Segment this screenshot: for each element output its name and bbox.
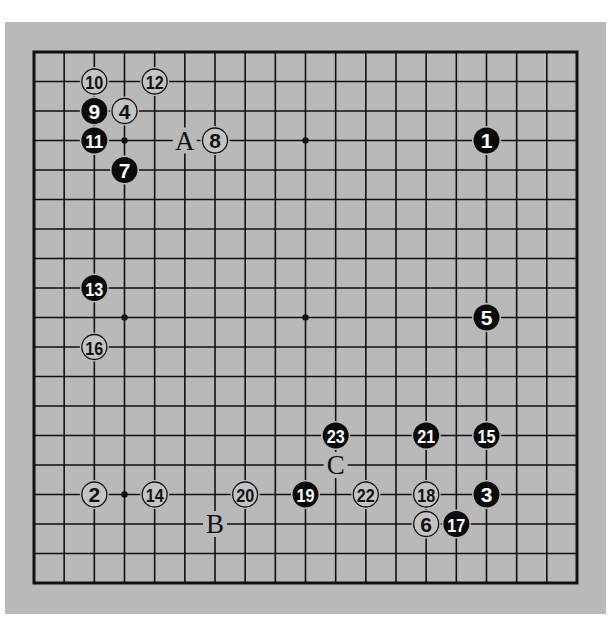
- svg-text:B: B: [206, 509, 224, 539]
- star-point: [302, 314, 308, 320]
- white-stone-14: 14: [140, 480, 169, 509]
- white-stone-22: 22: [351, 480, 380, 509]
- black-stone-15: 15: [472, 421, 501, 450]
- svg-text:18: 18: [417, 486, 435, 506]
- svg-text:8: 8: [209, 129, 221, 152]
- svg-text:19: 19: [297, 486, 315, 506]
- svg-text:16: 16: [85, 339, 103, 359]
- black-stone-7: 7: [110, 156, 139, 185]
- svg-text:2: 2: [88, 483, 100, 506]
- black-stone-23: 23: [321, 421, 350, 450]
- white-stone-8: 8: [201, 126, 230, 155]
- svg-text:A: A: [175, 126, 195, 156]
- white-stone-2: 2: [80, 480, 109, 509]
- svg-text:3: 3: [481, 483, 493, 506]
- white-stone-6: 6: [412, 510, 441, 539]
- star-point: [121, 314, 127, 320]
- star-point: [121, 491, 127, 497]
- white-stone-12: 12: [140, 67, 169, 96]
- svg-text:20: 20: [236, 486, 254, 506]
- black-stone-5: 5: [472, 303, 501, 332]
- svg-text:6: 6: [420, 513, 432, 536]
- board-label-a: A: [173, 126, 197, 156]
- board-label-b: B: [203, 509, 227, 539]
- black-stone-13: 13: [80, 274, 109, 303]
- svg-text:22: 22: [357, 486, 375, 506]
- white-stone-16: 16: [80, 333, 109, 362]
- white-stone-18: 18: [412, 480, 441, 509]
- black-stone-21: 21: [412, 421, 441, 450]
- black-stone-11: 11: [80, 126, 109, 155]
- white-stone-20: 20: [231, 480, 260, 509]
- svg-text:21: 21: [417, 427, 435, 447]
- svg-text:14: 14: [146, 486, 164, 506]
- star-point: [302, 137, 308, 143]
- board-stones: 1234567891011121314151617181920212223: [80, 67, 501, 539]
- svg-text:5: 5: [481, 306, 493, 329]
- svg-text:13: 13: [85, 280, 103, 300]
- board-labels: ABC: [173, 126, 348, 540]
- svg-text:10: 10: [85, 73, 103, 93]
- svg-text:11: 11: [85, 132, 103, 152]
- black-stone-1: 1: [472, 126, 501, 155]
- black-stone-9: 9: [80, 97, 109, 126]
- star-point: [121, 137, 127, 143]
- svg-text:4: 4: [119, 100, 131, 123]
- black-stone-3: 3: [472, 480, 501, 509]
- svg-text:12: 12: [146, 73, 164, 93]
- svg-text:23: 23: [327, 427, 345, 447]
- white-stone-10: 10: [80, 67, 109, 96]
- white-stone-4: 4: [110, 97, 139, 126]
- svg-text:9: 9: [88, 100, 100, 123]
- go-board: ABC 123456789101112131415161718192021222…: [0, 0, 616, 635]
- svg-text:C: C: [327, 450, 345, 480]
- svg-text:7: 7: [119, 159, 131, 182]
- board-label-c: C: [324, 450, 348, 480]
- svg-text:1: 1: [481, 129, 493, 152]
- svg-text:15: 15: [478, 427, 496, 447]
- svg-text:17: 17: [447, 516, 465, 536]
- black-stone-17: 17: [442, 510, 471, 539]
- black-stone-19: 19: [291, 480, 320, 509]
